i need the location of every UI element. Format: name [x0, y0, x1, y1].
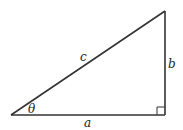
right-angle-marker [157, 107, 165, 115]
base-label: a [84, 116, 91, 130]
vertical-side-label: b [168, 57, 176, 71]
hypotenuse-line [11, 11, 165, 115]
angle-label: θ [28, 102, 36, 116]
right-triangle-diagram: c b a θ [0, 0, 183, 130]
hypotenuse-label: c [80, 50, 87, 64]
